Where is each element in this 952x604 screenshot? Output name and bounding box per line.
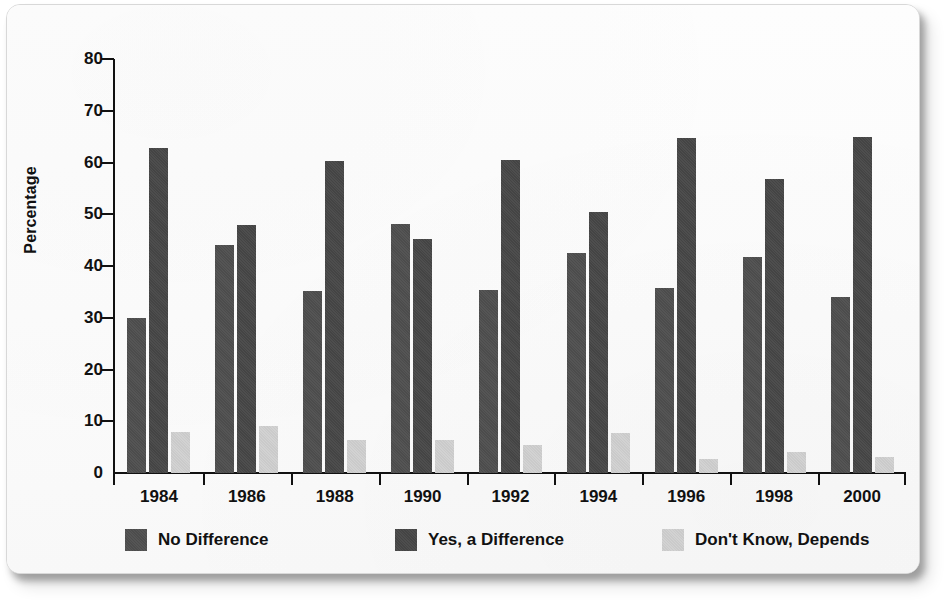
bar-no-difference-2000 bbox=[831, 297, 850, 473]
bar-don-t-know-depends-1986 bbox=[259, 426, 278, 473]
bar-no-difference-1996 bbox=[655, 288, 674, 473]
y-axis-tick-mark bbox=[101, 369, 114, 371]
y-axis-tick-label: 70 bbox=[59, 101, 103, 121]
legend-label: No Difference bbox=[158, 530, 269, 550]
bar-yes-a-difference-1996 bbox=[677, 138, 696, 473]
y-axis-tick-label: 60 bbox=[59, 153, 103, 173]
bar-yes-a-difference-1990 bbox=[413, 239, 432, 473]
chart-legend: No DifferenceYes, a DifferenceDon't Know… bbox=[7, 529, 919, 561]
x-axis-tick-label: 1994 bbox=[579, 487, 617, 507]
bar-yes-a-difference-1992 bbox=[501, 160, 520, 473]
bar-no-difference-1998 bbox=[743, 257, 762, 473]
x-axis-tick-label: 1986 bbox=[228, 487, 266, 507]
bar-chart: Percentage 01020304050607080 19841986198… bbox=[7, 5, 919, 573]
bar-group bbox=[379, 59, 467, 473]
bar-group bbox=[818, 59, 906, 473]
bar-yes-a-difference-1998 bbox=[765, 179, 784, 473]
legend-swatch-icon bbox=[125, 529, 147, 551]
y-axis-tick-label: 50 bbox=[59, 204, 103, 224]
bar-no-difference-1984 bbox=[127, 318, 146, 473]
y-axis-tick-mark bbox=[101, 162, 114, 164]
y-axis-tick-label: 10 bbox=[59, 411, 103, 431]
bar-don-t-know-depends-2000 bbox=[875, 457, 894, 473]
bar-no-difference-1990 bbox=[391, 224, 410, 473]
bar-don-t-know-depends-1988 bbox=[347, 440, 366, 473]
bar-group bbox=[115, 59, 203, 473]
bar-no-difference-1986 bbox=[215, 245, 234, 473]
y-axis-tick-mark bbox=[101, 58, 114, 60]
y-axis-tick-mark bbox=[101, 317, 114, 319]
y-axis-tick-label: 40 bbox=[59, 256, 103, 276]
y-axis-tick-mark bbox=[101, 265, 114, 267]
bar-yes-a-difference-1986 bbox=[237, 225, 256, 473]
x-axis-tick-label: 1984 bbox=[140, 487, 178, 507]
x-axis-tick-mark bbox=[642, 472, 644, 485]
bar-group bbox=[291, 59, 379, 473]
x-axis-tick-label: 1988 bbox=[316, 487, 354, 507]
legend-item-don-t-know-depends[interactable]: Don't Know, Depends bbox=[662, 529, 869, 551]
legend-swatch-icon bbox=[662, 529, 684, 551]
bar-group bbox=[467, 59, 555, 473]
legend-item-yes-a-difference[interactable]: Yes, a Difference bbox=[395, 529, 564, 551]
bar-yes-a-difference-1994 bbox=[589, 212, 608, 473]
x-axis-tick-mark bbox=[379, 472, 381, 485]
bar-yes-a-difference-1984 bbox=[149, 148, 168, 473]
bar-don-t-know-depends-1994 bbox=[611, 433, 630, 473]
x-axis-tick-mark bbox=[818, 472, 820, 485]
x-axis-tick-label: 1998 bbox=[755, 487, 793, 507]
bar-group bbox=[203, 59, 291, 473]
bar-no-difference-1992 bbox=[479, 290, 498, 473]
y-axis-tick-labels: 01020304050607080 bbox=[51, 5, 103, 573]
bar-yes-a-difference-1988 bbox=[325, 161, 344, 473]
y-axis-tick-label: 20 bbox=[59, 360, 103, 380]
x-axis-tick-mark bbox=[554, 472, 556, 485]
y-axis-tick-mark bbox=[101, 110, 114, 112]
x-axis-tick-label: 1990 bbox=[404, 487, 442, 507]
bar-group bbox=[642, 59, 730, 473]
bar-group bbox=[730, 59, 818, 473]
x-axis-right-end-tick bbox=[904, 472, 906, 485]
x-axis-left-end-tick bbox=[113, 472, 115, 485]
bar-no-difference-1988 bbox=[303, 291, 322, 473]
legend-label: Yes, a Difference bbox=[428, 530, 564, 550]
legend-swatch-icon bbox=[395, 529, 417, 551]
scanned-page-card: Percentage 01020304050607080 19841986198… bbox=[6, 4, 920, 574]
x-axis-tick-label: 1992 bbox=[492, 487, 530, 507]
y-axis-tick-label: 30 bbox=[59, 308, 103, 328]
bar-don-t-know-depends-1996 bbox=[699, 459, 718, 473]
bar-don-t-know-depends-1984 bbox=[171, 432, 190, 473]
y-axis-tick-label: 0 bbox=[59, 463, 103, 483]
legend-label: Don't Know, Depends bbox=[695, 530, 869, 550]
plot-area bbox=[115, 59, 906, 473]
x-axis-tick-mark bbox=[291, 472, 293, 485]
x-axis-tick-mark bbox=[203, 472, 205, 485]
bar-no-difference-1994 bbox=[567, 253, 586, 473]
bar-don-t-know-depends-1990 bbox=[435, 440, 454, 473]
bar-don-t-know-depends-1992 bbox=[523, 445, 542, 473]
bar-yes-a-difference-2000 bbox=[853, 137, 872, 473]
y-axis-tick-label: 80 bbox=[59, 49, 103, 69]
legend-item-no-difference[interactable]: No Difference bbox=[125, 529, 269, 551]
y-axis-tick-mark bbox=[101, 420, 114, 422]
x-axis-tick-mark bbox=[730, 472, 732, 485]
bar-group bbox=[554, 59, 642, 473]
y-axis-tick-mark bbox=[101, 213, 114, 215]
bar-don-t-know-depends-1998 bbox=[787, 452, 806, 473]
x-axis-tick-label: 1996 bbox=[667, 487, 705, 507]
y-axis-title: Percentage bbox=[22, 140, 40, 280]
x-axis-tick-mark bbox=[467, 472, 469, 485]
x-axis-tick-label: 2000 bbox=[843, 487, 881, 507]
